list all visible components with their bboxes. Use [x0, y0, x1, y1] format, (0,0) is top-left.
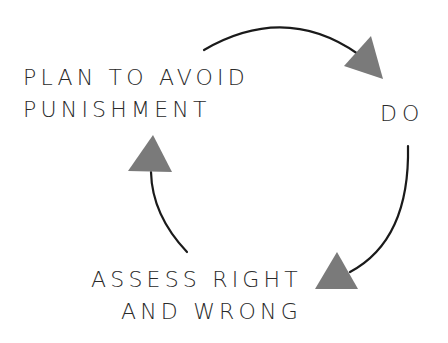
node-assess-line-2: AND WRONG	[91, 296, 302, 328]
node-plan-line-1: PLAN TO AVOID	[23, 62, 249, 94]
arc-do-to-assess	[350, 146, 408, 272]
arc-plan-to-do	[204, 27, 358, 54]
node-plan-to-avoid-punishment: PLAN TO AVOID PUNISHMENT	[23, 62, 249, 126]
cycle-diagram: PLAN TO AVOID PUNISHMENT DO ASSESS RIGHT…	[0, 0, 448, 343]
node-assess-right-and-wrong: ASSESS RIGHT AND WRONG	[91, 264, 302, 328]
arrowhead-to-plan-icon	[128, 135, 172, 172]
node-assess-line-1: ASSESS RIGHT	[91, 264, 302, 296]
node-do: DO	[380, 98, 424, 130]
node-do-line-1: DO	[380, 98, 424, 130]
arrowhead-to-do-icon	[344, 36, 383, 79]
node-plan-line-2: PUNISHMENT	[23, 94, 249, 126]
arc-assess-to-plan	[151, 172, 187, 252]
